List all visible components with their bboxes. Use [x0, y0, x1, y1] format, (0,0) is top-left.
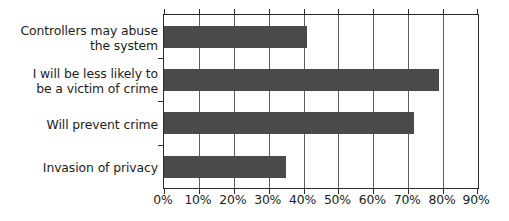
category-tick: [158, 145, 164, 146]
gridline-70: [408, 15, 409, 188]
xtick-label-90: 90%: [463, 192, 490, 208]
x-axis-tick-labels: 0% 10% 20% 30% 40% 50% 60% 70% 80% 90%: [163, 192, 477, 212]
category-label: I will be less likely to be a victim of …: [0, 66, 158, 96]
xtick-label-70: 70%: [394, 192, 421, 208]
xtick-label-40: 40%: [289, 192, 316, 208]
category-tick: [158, 101, 164, 102]
xtick-label-80: 80%: [429, 192, 456, 208]
tick-top-40: [304, 9, 305, 15]
tick-top-20: [234, 9, 235, 15]
tick-top-60: [373, 9, 374, 15]
xtick-label-60: 60%: [359, 192, 386, 208]
xtick-label-0: 0%: [153, 192, 172, 208]
category-tick: [158, 58, 164, 59]
bar-controllers-may-abuse-the-system: [164, 26, 307, 48]
plot-area: [163, 14, 479, 189]
xtick-label-10: 10%: [184, 192, 211, 208]
bar-less-likely-victim-of-crime: [164, 69, 439, 91]
gridline-50: [338, 15, 339, 188]
category-label: Will prevent crime: [0, 117, 158, 132]
tick-top-10: [199, 9, 200, 15]
tick-top-80: [443, 9, 444, 15]
xtick-label-50: 50%: [324, 192, 351, 208]
tick-top-30: [269, 9, 270, 15]
gridline-60: [373, 15, 374, 188]
category-label: Invasion of privacy: [0, 160, 158, 175]
tick-top-0: [164, 9, 165, 15]
bar-invasion-of-privacy: [164, 156, 286, 178]
tick-top-90: [477, 9, 478, 15]
xtick-label-30: 30%: [254, 192, 281, 208]
xtick-label-20: 20%: [219, 192, 246, 208]
bar-chart: Controllers may abuse the system I will …: [0, 0, 509, 221]
tick-top-70: [408, 9, 409, 15]
category-label: Controllers may abuse the system: [0, 23, 158, 53]
tick-top-50: [338, 9, 339, 15]
gridline-80: [443, 15, 444, 188]
bar-will-prevent-crime: [164, 112, 414, 134]
category-axis-labels: Controllers may abuse the system I will …: [0, 14, 158, 187]
